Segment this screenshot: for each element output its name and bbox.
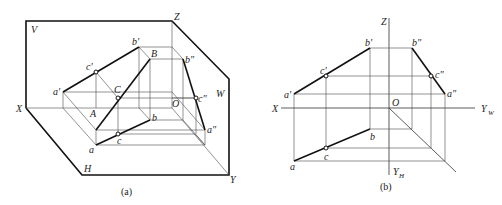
point-C	[116, 96, 120, 100]
label-Y: Y	[230, 174, 237, 185]
45-degree-line	[389, 108, 456, 172]
label-b-prime: b'	[132, 36, 140, 47]
caption-b: (b)	[380, 181, 392, 193]
label-W: W	[216, 88, 226, 99]
label-c-double-prime: c"	[198, 93, 207, 104]
label-a-prime-b: a'	[284, 89, 292, 100]
label-a-double-prime-b: a"	[447, 88, 457, 99]
label-V: V	[31, 24, 39, 35]
point-c-double-prime-b	[429, 74, 433, 78]
label-a-b: a	[290, 161, 295, 172]
v-projection-ab	[294, 48, 370, 94]
projection-diagrams: V H W X Z Y O a' c' b' B C A b c a b" c"…	[0, 0, 502, 205]
label-YW-main: Y	[481, 103, 488, 114]
label-X-b: X	[271, 103, 279, 114]
label-YH: Y H	[393, 166, 405, 180]
label-Z-b: Z	[381, 16, 387, 27]
label-YW: Y W	[481, 103, 495, 117]
space-line-AB	[96, 59, 150, 130]
line-projections-b	[294, 48, 445, 161]
label-b-prime-b: b'	[365, 37, 373, 48]
label-c-double-prime-b: c"	[435, 69, 444, 80]
caption-a: (a)	[121, 186, 132, 198]
label-b-double-prime-b: b"	[412, 37, 422, 48]
label-c-prime-b: c'	[320, 65, 327, 76]
label-C: C	[114, 84, 121, 95]
label-YW-sub: W	[488, 109, 495, 117]
label-YH-sub: H	[398, 172, 405, 180]
figure-a: V H W X Z Y O a' c' b' B C A b c a b" c"…	[15, 11, 237, 198]
label-a-prime: a'	[53, 86, 61, 97]
point-c-prime	[94, 70, 98, 74]
label-c: c	[117, 135, 122, 146]
point-c-b	[324, 146, 328, 150]
label-H: H	[83, 163, 92, 174]
label-X: X	[15, 103, 23, 114]
projector-lines-b	[294, 48, 445, 161]
h-projection-ab	[294, 129, 370, 161]
label-O: O	[172, 98, 179, 109]
figure-b: Z X O Y W Y H a' c' b' b" c" a" b c a (b…	[271, 16, 495, 193]
label-A: A	[89, 108, 97, 119]
label-b: b	[152, 112, 157, 123]
label-Z: Z	[174, 11, 180, 22]
label-c-prime: c'	[86, 61, 93, 72]
v-projection-line	[63, 47, 139, 92]
label-b-b: b	[370, 131, 375, 142]
h-projection-line	[96, 120, 150, 145]
label-B: B	[151, 48, 157, 59]
label-a-double-prime: a"	[207, 124, 217, 135]
label-O-b: O	[392, 97, 399, 108]
label-b-double-prime: b"	[185, 54, 195, 65]
label-a: a	[89, 144, 94, 155]
label-c-b: c	[324, 151, 329, 162]
